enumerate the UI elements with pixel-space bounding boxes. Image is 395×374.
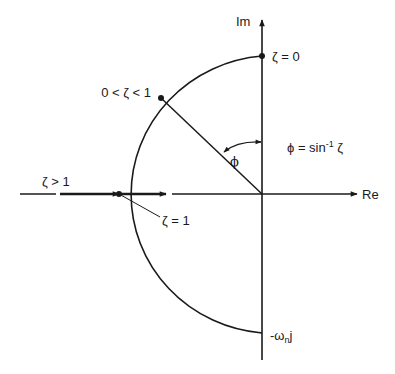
phi-angle-arc bbox=[224, 142, 261, 152]
zeta-zero-label: ζ = 0 bbox=[272, 49, 300, 64]
zeta-zero-point bbox=[259, 53, 265, 59]
zeta-one-point bbox=[116, 191, 122, 197]
s-plane-diagram: Im Re ζ = 0 0 < ζ < 1 ζ > 1 ζ = 1 ϕ ϕ = … bbox=[0, 0, 395, 374]
zeta-one-leader bbox=[119, 194, 160, 217]
phi-formula: ϕ = sin-1 ζ bbox=[287, 139, 343, 155]
bottom-point-label: -ωnj bbox=[270, 328, 293, 345]
zeta-between-label: 0 < ζ < 1 bbox=[101, 85, 151, 100]
zeta-between-point bbox=[158, 95, 164, 101]
phi-symbol: ϕ bbox=[230, 154, 239, 169]
imaginary-axis-label: Im bbox=[236, 14, 250, 29]
zeta-one-label: ζ = 1 bbox=[162, 213, 190, 228]
zeta-greater-label: ζ > 1 bbox=[42, 174, 70, 189]
real-axis-label: Re bbox=[362, 187, 379, 202]
radial-line bbox=[161, 98, 262, 194]
